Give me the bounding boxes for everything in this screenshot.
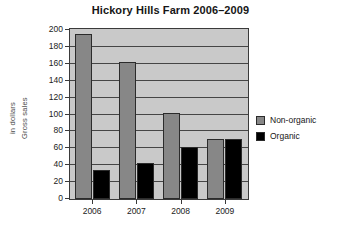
y-axis-tick-label: 100 (39, 109, 63, 118)
chart-title: Hickory Hills Farm 2006–2009 (0, 4, 341, 16)
x-axis-tick-label-2009: 2009 (215, 207, 234, 216)
y-axis-tick-label: 60 (39, 143, 63, 152)
chart-figure: Hickory Hills Farm 2006–2009 Gross sales… (0, 0, 341, 234)
bar-group-2009 (203, 29, 247, 199)
x-axis-tick-label-2007: 2007 (127, 207, 146, 216)
legend-item-label: Organic (270, 132, 300, 141)
bar-2006-non-organic (75, 34, 92, 199)
y-axis-tick-label: 180 (39, 42, 63, 51)
chart-legend: Non-organicOrganic (256, 112, 340, 144)
legend-item-nonorganic[interactable]: Non-organic (256, 112, 340, 128)
legend-swatch-icon-organic (256, 132, 265, 141)
y-axis-tick-label: 160 (39, 59, 63, 68)
y-axis-tick-label: 120 (39, 92, 63, 101)
bar-group-2006 (70, 29, 114, 199)
x-axis-tick (136, 199, 137, 204)
y-axis-tick-label: 80 (39, 126, 63, 135)
y-axis-title: Gross sales in dollars (4, 72, 34, 164)
bar-2009-non-organic (207, 139, 224, 199)
legend-swatch-icon-nonorganic (256, 116, 265, 125)
x-axis-tick-label-2006: 2006 (83, 207, 102, 216)
bar-2006-organic (93, 170, 110, 199)
bar-group-2007 (114, 29, 158, 199)
x-axis-tick (181, 199, 182, 204)
bar-2008-non-organic (163, 113, 180, 199)
y-axis-tick-label: 140 (39, 75, 63, 84)
x-axis-tick (92, 199, 93, 204)
plot-inner: 0204060801001201401601802002006200720082… (70, 29, 248, 199)
bar-2009-organic (225, 139, 242, 199)
bar-2007-organic (137, 163, 154, 199)
plot-area: 0204060801001201401601802002006200720082… (69, 28, 249, 200)
bar-2007-non-organic (119, 62, 136, 199)
bar-2008-organic (181, 147, 198, 199)
y-axis-tick-label: 40 (39, 160, 63, 169)
legend-item-organic[interactable]: Organic (256, 128, 340, 144)
x-axis-tick (225, 199, 226, 204)
legend-item-label: Non-organic (270, 116, 316, 125)
y-axis-title-line2: in dollars (7, 72, 19, 164)
bar-group-2008 (159, 29, 203, 199)
y-axis-tick-label: 200 (39, 25, 63, 34)
y-axis-tick-label: 0 (39, 194, 63, 203)
y-axis-title-line1: Gross sales (19, 72, 31, 164)
y-axis-tick-label: 20 (39, 177, 63, 186)
x-axis-tick-label-2008: 2008 (171, 207, 190, 216)
